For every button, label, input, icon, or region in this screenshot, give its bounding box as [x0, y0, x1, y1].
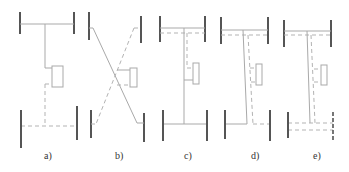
label-c: c): [184, 150, 192, 162]
engine-box: [256, 64, 262, 85]
drive-shaft: [243, 30, 247, 124]
engine-box: [52, 66, 63, 87]
engine-box: [321, 65, 327, 85]
drive-shaft: [307, 31, 310, 123]
panel-e: [284, 20, 333, 142]
panel-c: [160, 16, 207, 141]
label-d: d): [251, 150, 259, 162]
label-b: b): [115, 150, 123, 162]
label-e: e): [313, 150, 321, 162]
dashed-shaft: [311, 35, 315, 123]
engine-box: [130, 68, 137, 87]
drivetrain-diagram: a) b) c) d) e): [0, 0, 349, 172]
label-a: a): [44, 150, 52, 162]
panel-d: [221, 17, 270, 141]
panel-a: [20, 12, 77, 148]
engine-box: [193, 63, 199, 84]
panel-b: [89, 12, 144, 142]
dashed-shaft: [248, 35, 253, 124]
diagonal-shaft-dashed: [96, 28, 134, 124]
